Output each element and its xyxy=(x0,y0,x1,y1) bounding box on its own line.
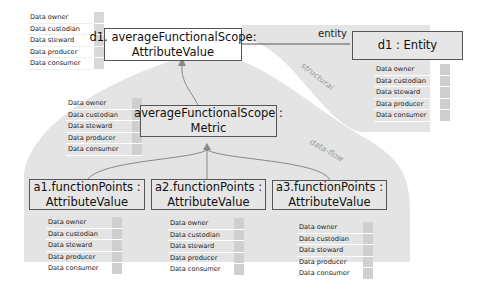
node-a3-function-points[interactable]: a3.functionPoints : AttributeValue xyxy=(272,180,387,210)
role-label: Data consumer xyxy=(66,144,132,156)
role-swatch xyxy=(94,58,104,70)
node-title: d1. averageFunctionalScope: xyxy=(89,30,256,45)
role-swatch xyxy=(363,257,373,269)
role-swatch xyxy=(363,268,373,280)
entity-roles-table: Data owner Data custodian Data steward D… xyxy=(374,64,450,122)
role-swatch xyxy=(112,252,122,264)
role-swatch xyxy=(440,76,450,88)
node-type: AttributeValue xyxy=(288,195,370,210)
role-label: Data producer xyxy=(168,253,234,265)
role-swatch xyxy=(440,99,450,111)
role-swatch xyxy=(132,144,142,156)
role-label: Data producer xyxy=(66,133,132,145)
node-title: a3.functionPoints : xyxy=(276,180,383,195)
node-type: AttributeValue xyxy=(132,45,214,60)
role-label: Data consumer xyxy=(374,110,440,122)
role-label: Data consumer xyxy=(28,58,94,70)
role-label: Data steward xyxy=(374,87,440,99)
role-label: Data steward xyxy=(66,121,132,133)
role-label: Data owner xyxy=(374,64,440,76)
role-label: Data consumer xyxy=(46,263,112,275)
role-label: Data custodian xyxy=(374,76,440,88)
role-swatch xyxy=(112,240,122,252)
role-swatch xyxy=(112,217,122,229)
role-label: Data producer xyxy=(46,252,112,264)
role-swatch xyxy=(363,245,373,257)
role-swatch xyxy=(234,253,244,265)
role-label: Data custodian xyxy=(168,230,234,242)
node-type: AttributeValue xyxy=(167,195,249,210)
role-swatch xyxy=(94,12,104,24)
role-label: Data custodian xyxy=(66,110,132,122)
node-metric[interactable]: averageFunctionalScope : Metric xyxy=(140,105,277,137)
node-type: Metric xyxy=(191,121,227,136)
role-label: Data steward xyxy=(297,245,363,257)
node-a1-function-points[interactable]: a1.functionPoints : AttributeValue xyxy=(29,179,145,210)
role-label: Data custodian xyxy=(46,229,112,241)
node-title: d1 : Entity xyxy=(378,38,437,53)
entity-edge-label: entity xyxy=(318,28,347,39)
role-swatch xyxy=(234,241,244,253)
role-label: Data owner xyxy=(168,218,234,230)
role-label: Data owner xyxy=(28,12,94,24)
metric-roles-table: Data owner Data custodian Data steward D… xyxy=(66,98,142,156)
node-title: a1.functionPoints : xyxy=(33,180,140,195)
role-swatch xyxy=(234,264,244,276)
role-label: Data owner xyxy=(46,217,112,229)
role-label: Data producer xyxy=(28,47,94,59)
role-label: Data owner xyxy=(297,222,363,234)
role-label: Data custodian xyxy=(28,24,94,36)
role-label: Data producer xyxy=(297,257,363,269)
a3-roles-table: Data owner Data custodian Data steward D… xyxy=(297,222,373,280)
role-swatch xyxy=(440,64,450,76)
role-label: Data producer xyxy=(374,99,440,111)
role-label: Data steward xyxy=(46,240,112,252)
node-d1-attribute-value[interactable]: d1. averageFunctionalScope: AttributeVal… xyxy=(104,28,242,61)
role-swatch xyxy=(112,263,122,275)
role-label: Data custodian xyxy=(297,234,363,246)
role-label: Data consumer xyxy=(297,268,363,280)
node-title: a2.functionPoints : xyxy=(155,180,262,195)
role-swatch xyxy=(94,47,104,59)
role-label: Data steward xyxy=(28,35,94,47)
a1-roles-table: Data owner Data custodian Data steward D… xyxy=(46,217,122,275)
role-swatch xyxy=(234,218,244,230)
role-swatch xyxy=(363,222,373,234)
role-swatch xyxy=(234,230,244,242)
node-d1-entity[interactable]: d1 : Entity xyxy=(352,31,463,60)
role-label: Data owner xyxy=(66,98,132,110)
node-type: AttributeValue xyxy=(46,195,128,210)
role-label: Data consumer xyxy=(168,264,234,276)
node-a2-function-points[interactable]: a2.functionPoints : AttributeValue xyxy=(151,179,266,210)
role-swatch xyxy=(112,229,122,241)
role-label: Data steward xyxy=(168,241,234,253)
node-title: averageFunctionalScope : xyxy=(134,106,283,121)
role-swatch xyxy=(363,234,373,246)
a2-roles-table: Data owner Data custodian Data steward D… xyxy=(168,218,244,276)
role-swatch xyxy=(440,110,450,122)
role-swatch xyxy=(440,87,450,99)
